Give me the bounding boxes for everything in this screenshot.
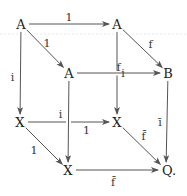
- edge-label-A_tl-to-A_mid: 1: [44, 37, 51, 50]
- edge-label-A_tl-to-A_tr: 1: [66, 11, 73, 24]
- node-A_tl: A: [15, 17, 26, 32]
- arrow-A_tr-to-B: [123, 30, 162, 68]
- node-Q: Q.: [162, 163, 176, 178]
- node-X_mid: X: [112, 115, 122, 130]
- edge-label-A_tr-to-X_mid: i: [121, 67, 125, 80]
- node-X_l: X: [15, 115, 25, 130]
- edges-layer: [20, 24, 168, 170]
- edge-label-A_tr-to-B: f: [148, 38, 153, 51]
- edge-label-X_l-to-X_bot: 1: [31, 144, 38, 157]
- edge-label-B-to-Q: ī: [157, 116, 162, 129]
- edge-label-A_tl-to-X_l: i: [11, 71, 15, 84]
- commutative-cube-diagram: 11fiī1iif1f̄f̄ AAABXXXQ.: [0, 0, 187, 196]
- edge-label-A_mid-to-X_bot: i: [59, 108, 63, 121]
- node-X_bot: X: [63, 163, 73, 178]
- node-A_mid: A: [63, 66, 74, 81]
- edge-label-X_mid-to-Q: f̄: [141, 130, 146, 143]
- node-B: B: [163, 66, 173, 81]
- edge-label-X_l-to-X_mid: 1: [83, 124, 90, 137]
- node-A_tr: A: [111, 17, 122, 32]
- edge-label-X_bot-to-Q: f̄: [111, 176, 116, 189]
